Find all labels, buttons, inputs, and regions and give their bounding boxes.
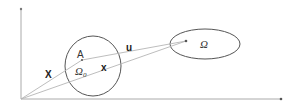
label-u: u bbox=[126, 42, 132, 53]
label-A: A bbox=[77, 49, 84, 60]
label-x: x bbox=[101, 62, 107, 73]
x-axis-arrow-icon bbox=[280, 98, 283, 101]
label-X: X bbox=[45, 69, 52, 80]
label-omega0: Ω0 bbox=[75, 65, 87, 79]
vector-u bbox=[82, 41, 186, 60]
deformation-diagram: X A Ω0 x u Ω bbox=[0, 0, 297, 106]
label-omega: Ω bbox=[200, 38, 208, 50]
coordinate-axes bbox=[20, 8, 283, 100]
point-image bbox=[185, 40, 188, 43]
y-axis-arrow-icon bbox=[20, 8, 22, 10]
